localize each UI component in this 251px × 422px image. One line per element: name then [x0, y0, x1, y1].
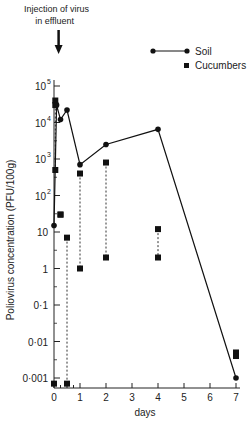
legend-soil-marker: [184, 48, 189, 53]
arrow-icon: [55, 45, 63, 54]
x-axis-label: days: [134, 407, 155, 418]
soil-marker: [233, 375, 239, 381]
soil-marker: [64, 107, 70, 113]
legend-soil-marker: [150, 48, 155, 53]
annotation-text: in effluent: [35, 16, 74, 26]
cucumber-marker: [64, 235, 70, 241]
y-tick-label: 10: [35, 154, 47, 165]
y-tick-label: 10: [35, 118, 47, 129]
y-tick-label: 0·001: [22, 373, 48, 384]
x-tick-label: 3: [129, 392, 135, 403]
soil-marker: [54, 102, 60, 108]
y-tick-label: 1: [42, 264, 48, 275]
legend-soil-label: Soil: [195, 46, 212, 57]
y-axis-label: Poliovirus concentration (PFU/100g): [5, 160, 16, 321]
y-tick-label: 5: [47, 78, 51, 85]
cucumber-marker: [155, 255, 161, 261]
cucumber-marker: [103, 160, 109, 166]
x-tick-label: 2: [103, 392, 109, 403]
cucumber-marker: [155, 226, 161, 232]
cucumber-marker: [233, 353, 239, 359]
cucumber-marker: [64, 381, 70, 387]
chart: Injection of virusin effluentSoilCucumbe…: [0, 0, 251, 422]
cucumber-marker: [77, 266, 83, 272]
x-tick-label: 5: [181, 392, 187, 403]
y-tick-label: 0·01: [28, 337, 48, 348]
cucumber-marker: [58, 212, 64, 218]
cucumber-marker: [77, 171, 83, 177]
annotation-text: Injection of virus: [24, 4, 90, 14]
soil-line: [54, 105, 236, 378]
legend-cucumbers-marker: [184, 63, 189, 68]
cucumber-marker: [51, 381, 57, 387]
cucumber-marker: [103, 255, 109, 261]
soil-marker: [51, 223, 57, 229]
y-tick-label: 10: [35, 191, 47, 202]
y-tick-label: 10: [37, 227, 49, 238]
y-tick-label: 2: [47, 188, 51, 195]
y-tick-label: 10: [35, 81, 47, 92]
x-tick-label: 1: [77, 392, 83, 403]
soil-marker: [155, 127, 161, 133]
y-tick-label: 3: [47, 151, 51, 158]
x-tick-label: 4: [155, 392, 161, 403]
x-tick-label: 6: [207, 392, 213, 403]
y-tick-label: 0·1: [34, 300, 49, 311]
x-tick-label: 7: [233, 392, 239, 403]
soil-marker: [77, 162, 83, 168]
x-tick-label: 0: [51, 392, 57, 403]
soil-marker: [58, 117, 64, 123]
y-tick-label: 4: [47, 115, 51, 122]
soil-marker: [103, 142, 109, 148]
legend-cucumbers-label: Cucumbers: [195, 60, 246, 71]
